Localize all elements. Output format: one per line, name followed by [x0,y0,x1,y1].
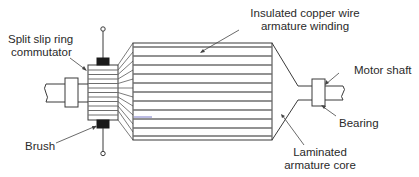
commutator-label-line2: commutator [8,46,73,59]
brush-label: Brush [25,140,55,153]
right-bearing [312,79,325,106]
winding-label: Insulated copper wire armature winding [235,7,375,33]
core-label-line2: armature core [278,159,362,172]
left-bearing [65,78,78,107]
commutator [88,65,118,120]
bottom-brush [97,120,109,156]
bearing-label: Bearing [339,117,379,130]
top-brush [97,27,109,65]
right-taper [272,43,298,140]
armature-core [133,43,272,140]
core-label: Laminated armature core [278,146,362,172]
core-label-line1: Laminated [278,146,362,159]
shaft-label: Motor shaft [354,64,412,77]
commutator-label: Split slip ring commutator [8,33,73,59]
commutator-label-line1: Split slip ring [8,33,73,46]
winding-leads [118,43,133,140]
winding-label-line1: Insulated copper wire [235,7,375,20]
winding-label-line2: armature winding [235,20,375,33]
